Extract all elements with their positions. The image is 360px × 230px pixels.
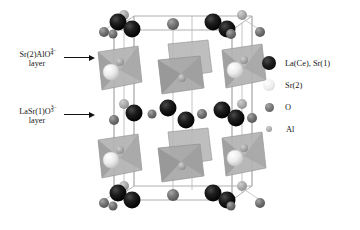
- arrow-head: [89, 55, 95, 61]
- layer-sr2-alo4-lower: [98, 128, 266, 182]
- legend-label: Sr(2): [285, 81, 302, 90]
- legend-label: O: [285, 103, 291, 112]
- oxygen-atom-icon: [265, 103, 274, 112]
- layer-lasr1-o3-bottom: [99, 181, 265, 211]
- la-ce-sr1-atom-icon: [262, 56, 276, 70]
- annotation-arrow-sr2-alo4: [64, 54, 96, 61]
- legend: La(Ce), Sr(1) Sr(2) O Al: [262, 52, 330, 140]
- arrow-head: [89, 112, 95, 118]
- legend-item-la-ce-sr1: La(Ce), Sr(1): [262, 52, 330, 74]
- legend-item-sr2: Sr(2): [262, 74, 330, 96]
- legend-item-o: O: [262, 96, 330, 118]
- arrow-shaft: [64, 114, 90, 115]
- layer-sr2-alo4-upper: [98, 40, 266, 94]
- annotation-lasr1-o3-layer: LaSr(1)O3−3 layer: [8, 106, 66, 125]
- legend-label: Al: [286, 125, 294, 134]
- sr2-atom-icon: [263, 79, 275, 91]
- legend-label: La(Ce), Sr(1): [285, 59, 330, 68]
- annotation-arrow-lasr1-o3: [64, 111, 96, 118]
- annotation-layer-word: layer: [8, 60, 66, 69]
- formula-subscript: 4: [50, 51, 53, 57]
- arrow-shaft: [64, 57, 90, 58]
- legend-item-al: Al: [262, 118, 330, 140]
- aluminium-atom-icon: [266, 126, 272, 132]
- layer-lasr1-o3-middle: [109, 99, 257, 129]
- annotation-layer-word: layer: [8, 117, 66, 126]
- annotation-sr2-alo4-layer: Sr(2)AlO3−4 layer: [8, 49, 66, 68]
- formula-subscript: 3: [51, 108, 54, 114]
- figure-root: Sr(2)AlO3−4 layer LaSr(1)O3−3 layer La(C…: [0, 0, 360, 230]
